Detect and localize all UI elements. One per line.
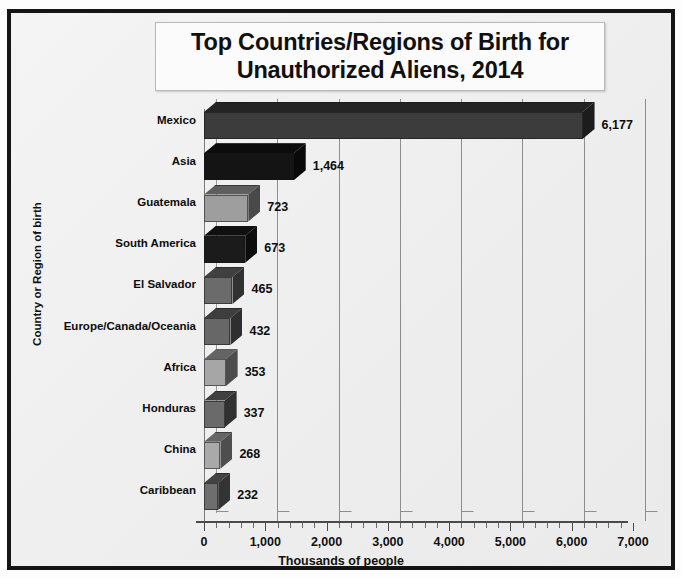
x-tick-label-6000: 6,000 (556, 535, 587, 549)
x-tick-minor (584, 523, 585, 528)
x-tick-minor (523, 523, 524, 528)
x-tick-minor (314, 523, 315, 528)
bar-value-label: 268 (239, 447, 260, 461)
bar-value-label: 432 (249, 324, 270, 338)
bar-value-label: 465 (251, 282, 272, 296)
x-tick-minor (547, 523, 548, 528)
bar-value-label: 337 (244, 406, 265, 420)
x-tick-minor (535, 523, 536, 528)
x-tick-major (388, 523, 389, 531)
x-tick-minor (437, 523, 438, 528)
bar-europe-canada-oceania[interactable] (204, 308, 242, 345)
bar-front-face (204, 401, 225, 428)
bar-front-face (204, 442, 220, 469)
bar-mexico[interactable] (204, 102, 595, 139)
category-label-el-salvador: El Salvador (11, 278, 196, 290)
x-tick-minor (216, 523, 217, 528)
x-tick-major (449, 523, 450, 531)
category-label-south-america: South America (11, 237, 196, 249)
x-tick-major (204, 523, 205, 531)
chart-title-box: Top Countries/Regions of Birth for Unaut… (155, 22, 605, 91)
x-tick-major (572, 523, 573, 531)
x-tick-minor (302, 523, 303, 528)
x-tick-minor (229, 523, 230, 528)
x-tick-minor (278, 523, 279, 528)
bar-front-face (204, 112, 583, 139)
chart-frame: Top Countries/Regions of Birth for Unaut… (7, 9, 675, 570)
x-tick-depth-connector (633, 511, 658, 522)
bar-asia[interactable] (204, 143, 306, 180)
x-tick-minor (290, 523, 291, 528)
x-tick-label-1000: 1,000 (250, 535, 281, 549)
bar-top-face (204, 102, 595, 112)
x-tick-major (327, 523, 328, 531)
gridline-3000 (400, 99, 401, 521)
x-tick-minor (474, 523, 475, 528)
bar-value-label: 353 (245, 365, 266, 379)
chart-canvas: Top Countries/Regions of Birth for Unaut… (11, 13, 671, 566)
category-label-asia: Asia (11, 155, 196, 167)
x-tick-major (633, 523, 634, 531)
x-tick-minor (559, 523, 560, 528)
x-tick-minor (400, 523, 401, 528)
x-tick-minor (596, 523, 597, 528)
x-tick-minor (376, 523, 377, 528)
gridline-4000 (461, 99, 462, 521)
x-tick-minor (608, 523, 609, 528)
category-label-europe-canada-oceania: Europe/Canada/Oceania (11, 320, 196, 332)
x-tick-minor (621, 523, 622, 528)
x-tick-minor (363, 523, 364, 528)
bar-front-face (204, 318, 230, 345)
bar-value-label: 6,177 (602, 118, 633, 132)
x-tick-major (265, 523, 266, 531)
bar-el-salvador[interactable] (204, 267, 244, 304)
bar-front-face (204, 483, 218, 510)
x-tick-minor (498, 523, 499, 528)
x-tick-minor (461, 523, 462, 528)
x-tick-minor (351, 523, 352, 528)
x-tick-minor (412, 523, 413, 528)
x-tick-label-0: 0 (201, 535, 208, 549)
bar-china[interactable] (204, 432, 232, 469)
category-label-honduras: Honduras (11, 402, 196, 414)
bar-top-face (204, 143, 306, 153)
chart-image: Top Countries/Regions of Birth for Unaut… (0, 0, 682, 578)
x-tick-label-3000: 3,000 (372, 535, 403, 549)
x-tick-label-4000: 4,000 (434, 535, 465, 549)
bar-front-face (204, 359, 226, 386)
x-tick-label-2000: 2,000 (311, 535, 342, 549)
x-tick-minor (339, 523, 340, 528)
gridline-5000 (522, 99, 523, 521)
x-tick-label-5000: 5,000 (495, 535, 526, 549)
x-tick-minor (486, 523, 487, 528)
x-tick-minor (241, 523, 242, 528)
x-tick-major (510, 523, 511, 531)
bar-honduras[interactable] (204, 391, 237, 428)
bar-front-face (204, 236, 245, 263)
bar-guatemala[interactable] (204, 185, 260, 222)
bar-value-label: 232 (237, 488, 258, 502)
bar-caribbean[interactable] (204, 473, 230, 510)
plot-back-wall-edge (645, 99, 646, 511)
category-label-china: China (11, 443, 196, 455)
bar-south-america[interactable] (204, 226, 257, 263)
x-axis-title: Thousands of people (11, 554, 671, 568)
category-label-africa: Africa (11, 361, 196, 373)
category-label-caribbean: Caribbean (11, 484, 196, 496)
category-label-guatemala: Guatemala (11, 196, 196, 208)
x-tick-minor (425, 523, 426, 528)
bar-value-label: 723 (267, 200, 288, 214)
category-label-mexico: Mexico (11, 114, 196, 126)
bar-africa[interactable] (204, 349, 238, 386)
x-tick-label-7000: 7,000 (617, 535, 648, 549)
gridline-6000 (584, 99, 585, 521)
bar-front-face (204, 153, 294, 180)
bar-front-face (204, 277, 232, 304)
chart-title: Top Countries/Regions of Birth for Unaut… (191, 29, 569, 84)
bar-front-face (204, 195, 248, 222)
bar-value-label: 1,464 (313, 159, 344, 173)
x-tick-minor (253, 523, 254, 528)
bar-value-label: 673 (264, 241, 285, 255)
